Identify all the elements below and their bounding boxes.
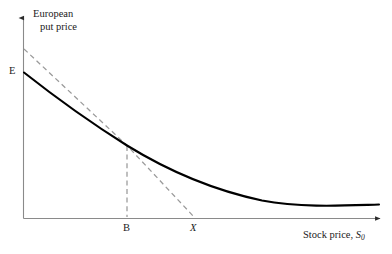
y-axis-label: European put price	[33, 8, 77, 33]
y-intercept-label-e: E	[9, 65, 15, 76]
y-axis-label-line2: put price	[33, 21, 77, 34]
x-tick-label-x: X	[190, 222, 196, 233]
x-axis-label: Stock price, S0	[303, 229, 365, 244]
x-axis-label-text: Stock price,	[303, 229, 356, 240]
european-put-price-curve	[24, 73, 379, 206]
x-axis-label-subscript: 0	[361, 233, 365, 242]
x-tick-label-b: B	[123, 222, 130, 233]
put-price-chart-figure: European put price Stock price, S0 E B X	[0, 0, 392, 254]
y-axis-label-line1: European	[33, 8, 73, 19]
chart-plot-area	[0, 0, 392, 254]
